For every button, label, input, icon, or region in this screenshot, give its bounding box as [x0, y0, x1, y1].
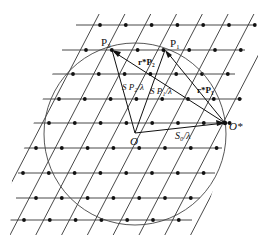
lattice-point: [176, 171, 180, 175]
lattice-point: [123, 72, 127, 76]
lattice-point: [202, 171, 206, 175]
lattice-point: [84, 48, 88, 52]
label-p2: P₂: [101, 37, 111, 48]
lattice-point: [150, 23, 154, 27]
lattice-point: [212, 97, 216, 101]
lattice-point: [124, 23, 128, 27]
ewald-diagram: [0, 0, 265, 250]
lattice-slant-line: [0, 14, 73, 235]
lattice-point: [47, 121, 51, 125]
lattice-slant-line: [191, 14, 265, 235]
lattice-point: [239, 48, 243, 52]
lattice-point: [60, 146, 64, 150]
lattice-slant-line: [0, 14, 22, 235]
point-o-star: [223, 121, 227, 125]
lattice-point: [176, 121, 180, 125]
lattice-point: [163, 146, 167, 150]
lattice-point: [34, 146, 38, 150]
lattice-point: [97, 72, 101, 76]
lattice-point: [189, 196, 193, 200]
lattice-point: [21, 171, 25, 175]
lattice-point: [57, 97, 61, 101]
lattice-point: [150, 121, 154, 125]
lattice-point: [215, 146, 219, 150]
lattice-point: [125, 218, 129, 222]
lattice-point: [112, 196, 116, 200]
lattice-point: [151, 218, 155, 222]
label-r-p2: r*P₂: [138, 57, 155, 68]
lattice-slant-line: [242, 14, 265, 235]
lattice-point: [137, 196, 141, 200]
lattice-point: [99, 171, 103, 175]
lattice-point: [109, 97, 113, 101]
lattice-point: [213, 48, 217, 52]
lattice-point: [189, 146, 193, 150]
lattice-point: [110, 48, 114, 52]
lattice-point: [22, 218, 26, 222]
lattice-point: [98, 23, 102, 27]
label-p1: P₁: [170, 38, 180, 49]
lattice-point: [174, 72, 178, 76]
lattice-point: [71, 72, 75, 76]
vector-rp1: [167, 52, 225, 123]
lattice-point: [150, 171, 154, 175]
lattice-point: [47, 171, 51, 175]
lattice-point: [201, 23, 205, 27]
label-r-p1: r*P₁: [197, 85, 214, 96]
lattice-point: [99, 121, 103, 125]
lattice-point: [135, 97, 139, 101]
lattice-point: [227, 23, 231, 27]
lattice-point: [226, 72, 230, 76]
lattice-point: [73, 171, 77, 175]
lattice-point: [163, 196, 167, 200]
lattice-point: [86, 146, 90, 150]
lattice-point: [187, 48, 191, 52]
lattice-point: [177, 218, 181, 222]
lattice-point: [112, 146, 116, 150]
label-s-p2: S P₂/λ: [122, 82, 144, 93]
lattice-point: [73, 121, 77, 125]
lattice-point: [125, 121, 129, 125]
lattice-point: [176, 23, 180, 27]
lattice-point: [86, 196, 90, 200]
lattice-slant-line: [36, 14, 151, 235]
lattice-point: [34, 196, 38, 200]
lattice-point: [253, 23, 257, 27]
lattice-point: [238, 97, 242, 101]
lattice-point: [48, 218, 52, 222]
lattice-point: [60, 196, 64, 200]
lattice-slant-line: [62, 14, 177, 235]
lattice-point: [136, 48, 140, 52]
lattice-point: [124, 171, 128, 175]
label-s-p1: S P₁/λ: [150, 86, 172, 97]
label-s0: S₀/λ: [175, 130, 191, 141]
lattice-slant-line: [0, 14, 48, 235]
lattice-point: [74, 218, 78, 222]
lattice-point: [160, 97, 164, 101]
label-o-star: O*: [229, 121, 242, 132]
lattice-point: [83, 97, 87, 101]
label-o: O: [130, 136, 138, 147]
lattice-point: [202, 121, 206, 125]
